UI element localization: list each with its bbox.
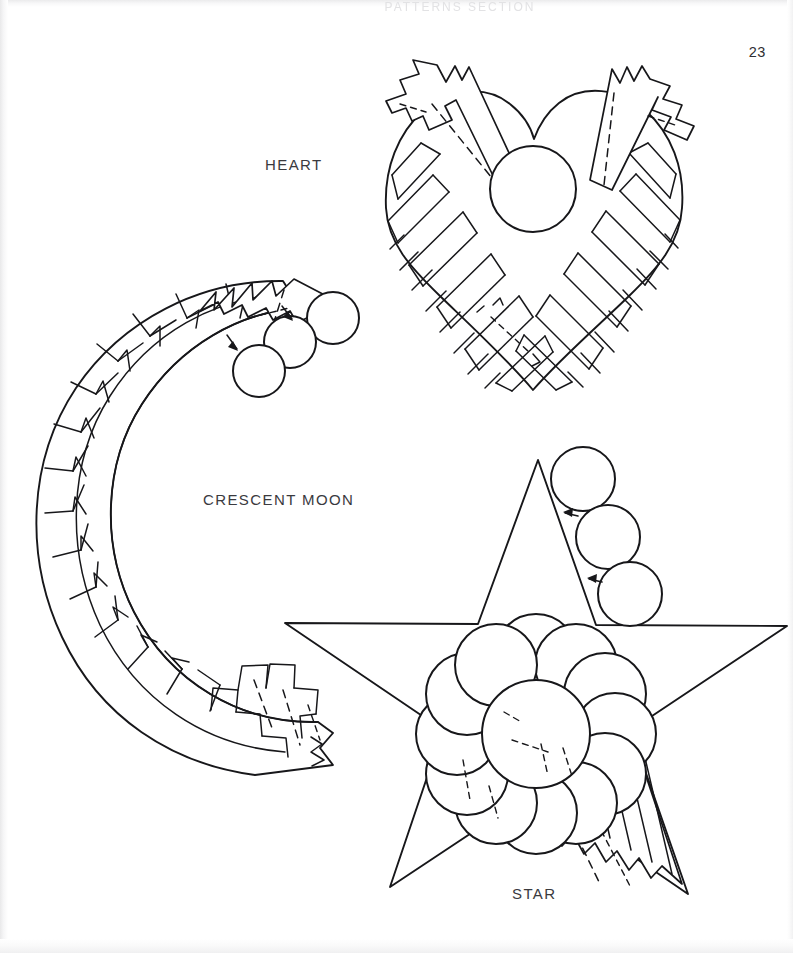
star-figure xyxy=(285,447,787,894)
star-direction-arrow-2 xyxy=(587,574,602,583)
pattern-page: PATTERNS SECTION 23 xyxy=(0,0,793,953)
crescent-moon-figure xyxy=(36,279,359,775)
figure-label-heart: HEART xyxy=(265,156,323,173)
star-center-circle xyxy=(482,680,590,788)
star-guide-circle-3 xyxy=(598,562,662,626)
star-guide-circle-2 xyxy=(576,505,640,569)
heart-center-circle xyxy=(490,146,576,232)
figure-label-star: STAR xyxy=(512,885,557,902)
crescent-guide-circle-3 xyxy=(233,345,285,397)
heart-figure xyxy=(386,60,694,391)
pattern-artwork xyxy=(0,0,793,953)
star-guide-circle-1 xyxy=(551,447,615,511)
crescent-direction-arrow-2 xyxy=(227,335,238,351)
figure-label-crescent-moon: CRESCENT MOON xyxy=(203,491,354,508)
